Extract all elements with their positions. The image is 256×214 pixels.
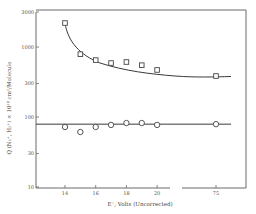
chart: 300010003001003010 1416182075 E⁺, Volts … xyxy=(0,0,256,214)
squares-fit-curve xyxy=(65,23,231,77)
axis-right-top xyxy=(36,10,246,188)
square-marker xyxy=(63,21,68,26)
square-marker xyxy=(78,52,83,57)
fit-curves xyxy=(36,23,231,124)
y-tick-label: 300 xyxy=(24,80,34,86)
plot-frame xyxy=(36,10,246,188)
circle-marker xyxy=(154,122,159,127)
x-tick-label: 75 xyxy=(213,190,219,196)
square-marker xyxy=(109,61,114,66)
y-tick-label: 3000 xyxy=(21,9,34,15)
square-marker xyxy=(155,68,160,73)
square-marker xyxy=(124,60,129,65)
x-axis-label: E⁺, Volts (Uncorrected) xyxy=(107,201,172,207)
axis-left-bottom xyxy=(36,12,170,188)
y-tick-label: 1000 xyxy=(21,44,34,50)
square-marker xyxy=(214,74,219,79)
x-tick-label: 20 xyxy=(154,190,160,196)
x-tick-label: 14 xyxy=(62,190,68,196)
circle-marker xyxy=(124,120,129,125)
circle-marker xyxy=(78,129,83,134)
x-axis-ticks: 1416182075 xyxy=(62,185,219,196)
circle-marker xyxy=(108,122,113,127)
data-points xyxy=(62,21,218,135)
circle-marker xyxy=(213,121,218,126)
circle-marker xyxy=(62,124,67,129)
square-marker xyxy=(139,63,144,68)
circle-marker xyxy=(139,120,144,125)
y-tick-label: 30 xyxy=(28,150,34,156)
y-tick-label: 100 xyxy=(24,114,34,120)
x-tick-label: 18 xyxy=(123,190,129,196)
square-marker xyxy=(93,58,98,63)
y-tick-label: 10 xyxy=(28,184,34,190)
circle-marker xyxy=(93,124,98,129)
y-axis-label: Q (N₂⁺, H₂⁺) × 10¹⁸ cm²/Molecule xyxy=(6,61,12,154)
x-tick-label: 16 xyxy=(93,190,99,196)
